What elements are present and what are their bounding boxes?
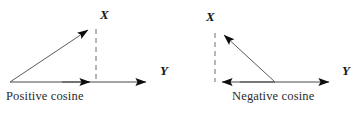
figure-canvas: X Y Positive cosine X Y Negative cosine [0,0,357,113]
caption-positive-cosine: Positive cosine [6,90,84,103]
axis-label-x-negative: X [206,10,215,23]
axis-label-y-positive: Y [160,64,168,77]
diagram-positive-cosine [10,29,146,82]
caption-negative-cosine: Negative cosine [232,90,314,103]
axis-label-x-positive: X [100,8,109,21]
resultant-vector-right [224,35,275,82]
diagram-negative-cosine [215,33,329,82]
axis-label-y-negative: Y [342,64,350,77]
resultant-vector-left [10,30,88,82]
